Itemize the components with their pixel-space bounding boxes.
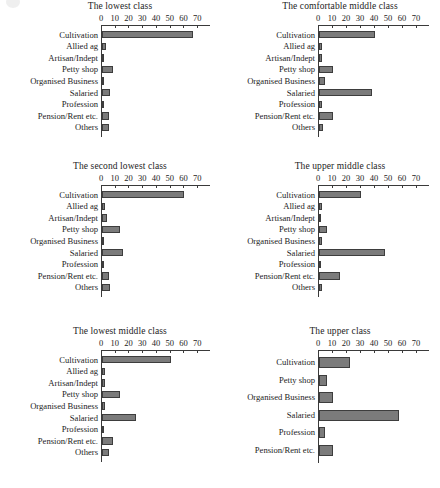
x-tick-label: 20 xyxy=(342,338,351,348)
bar-row: Salaried xyxy=(101,247,204,259)
x-tick-label: 50 xyxy=(165,13,174,23)
bar xyxy=(102,89,110,96)
x-tick-label: 30 xyxy=(138,13,147,23)
plot-area: CultivationAllied agArtisan/IndeptPetty … xyxy=(101,350,204,462)
bar xyxy=(319,124,323,131)
x-axis-tick-labels: 010203040506070 xyxy=(318,173,423,185)
x-tick-label: 70 xyxy=(193,173,202,183)
x-axis-tick-labels: 010203040506070 xyxy=(101,13,204,25)
charts-grid: The lowest class010203040506070Cultivati… xyxy=(0,0,440,488)
x-tick-label: 10 xyxy=(328,13,337,23)
bar xyxy=(319,410,399,421)
bar xyxy=(102,402,105,409)
x-tick-label: 10 xyxy=(328,338,337,348)
category-label: Organised Business xyxy=(247,77,318,86)
category-label: Others xyxy=(75,448,101,457)
x-tick-label: 30 xyxy=(356,13,365,23)
category-label: Artisan/Indept xyxy=(265,54,318,63)
bar xyxy=(319,445,333,456)
bar-row: Petty shop xyxy=(318,64,423,76)
bar-row: Artisan/Indept xyxy=(101,377,204,389)
bar xyxy=(319,357,350,368)
x-tick-label: 50 xyxy=(165,338,174,348)
bar xyxy=(319,89,372,96)
category-label: Salaried xyxy=(70,414,101,423)
bar-row: Profession xyxy=(101,424,204,436)
bar-row: Profession xyxy=(318,259,423,271)
x-tick-label: 10 xyxy=(110,13,119,23)
category-label: Profession xyxy=(279,100,318,109)
bar xyxy=(102,191,184,198)
chart-title: The comfortable middle class xyxy=(248,1,432,11)
x-tick-label: 50 xyxy=(165,173,174,183)
x-tick-label: 20 xyxy=(342,13,351,23)
x-tick-label: 60 xyxy=(398,13,407,23)
category-label: Pension/Rent etc. xyxy=(38,272,101,281)
bar-row: Others xyxy=(318,282,423,294)
x-tick-label: 10 xyxy=(110,173,119,183)
bar-row: Others xyxy=(318,122,423,134)
category-label: Profession xyxy=(62,260,101,269)
bar-row: Salaried xyxy=(318,87,423,99)
bar-row: Profession xyxy=(101,259,204,271)
chart-title: The lowest class xyxy=(28,1,212,11)
bar-row: Cultivation xyxy=(318,354,423,372)
category-label: Allied ag xyxy=(66,367,101,376)
category-label: Pension/Rent etc. xyxy=(38,437,101,446)
chart-title: The lowest middle class xyxy=(28,326,212,336)
x-tick-label: 10 xyxy=(110,338,119,348)
category-label: Cultivation xyxy=(59,356,101,365)
bar-row: Allied ag xyxy=(101,41,204,53)
bar-row: Pension/Rent etc. xyxy=(101,270,204,282)
chart-title: The upper middle class xyxy=(248,161,432,171)
category-label: Others xyxy=(292,123,318,132)
bar xyxy=(319,427,325,438)
bar-row: Cultivation xyxy=(101,189,204,201)
bar xyxy=(102,124,109,131)
x-axis-tick-labels: 010203040506070 xyxy=(318,338,423,350)
bar xyxy=(102,31,193,38)
bar xyxy=(102,43,106,50)
bar xyxy=(102,368,105,375)
bar-rows: CultivationAllied agArtisan/IndeptPetty … xyxy=(101,185,204,297)
bar-row: Salaried xyxy=(318,407,423,425)
x-tick-label: 70 xyxy=(412,338,421,348)
category-label: Cultivation xyxy=(276,191,318,200)
bar-row: Profession xyxy=(318,424,423,442)
category-label: Allied ag xyxy=(66,202,101,211)
category-label: Organised Business xyxy=(30,77,101,86)
bar-rows: CultivationAllied agArtisan/IndeptPetty … xyxy=(101,350,204,462)
x-tick-label: 20 xyxy=(124,13,133,23)
x-tick-label: 60 xyxy=(179,173,188,183)
category-label: Profession xyxy=(62,425,101,434)
plot-area: CultivationAllied agArtisan/IndeptPetty … xyxy=(101,185,204,297)
x-tick-label: 70 xyxy=(412,173,421,183)
bar xyxy=(319,284,322,291)
bar-rows: CultivationPetty shopOrganised BusinessS… xyxy=(318,350,423,463)
bar-row: Pension/Rent etc. xyxy=(101,110,204,122)
bar-row: Artisan/Indept xyxy=(318,52,423,64)
bar xyxy=(319,43,322,50)
x-tick-label: 0 xyxy=(99,173,103,183)
category-label: Petty shop xyxy=(62,65,101,74)
bar-row: Organised Business xyxy=(318,75,423,87)
x-tick-label: 40 xyxy=(152,13,161,23)
bar-row: Allied ag xyxy=(318,201,423,213)
bar-rows: CultivationAllied agArtisan/IndeptPetty … xyxy=(318,185,423,297)
bar-row: Organised Business xyxy=(101,400,204,412)
bar xyxy=(319,54,322,61)
bar xyxy=(102,249,123,256)
category-label: Cultivation xyxy=(59,31,101,40)
bar-row: Cultivation xyxy=(101,29,204,41)
bar xyxy=(102,356,171,363)
bar-row: Petty shop xyxy=(101,224,204,236)
bar-row: Organised Business xyxy=(318,389,423,407)
bar-row: Salaried xyxy=(101,87,204,99)
bar xyxy=(319,112,333,119)
x-tick-label: 0 xyxy=(99,338,103,348)
bar-row: Allied ag xyxy=(101,201,204,213)
x-tick-label: 0 xyxy=(99,13,103,23)
x-tick-label: 40 xyxy=(370,338,379,348)
bar-row: Petty shop xyxy=(101,64,204,76)
bar-row: Artisan/Indept xyxy=(101,212,204,224)
